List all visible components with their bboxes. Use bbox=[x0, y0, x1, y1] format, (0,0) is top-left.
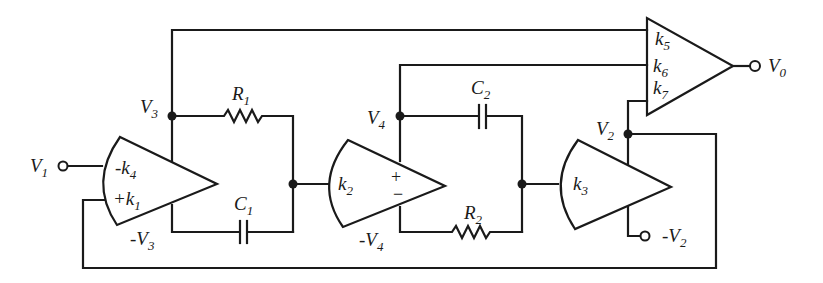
label-summer-k5: k5 bbox=[655, 28, 670, 53]
label-amp2-k2: k2 bbox=[338, 173, 353, 198]
amplifier-1 bbox=[103, 137, 217, 225]
label-r1: R1 bbox=[231, 83, 250, 108]
label-v3: V3 bbox=[140, 96, 159, 121]
label-neg-v2: -V2 bbox=[662, 225, 687, 250]
label-amp1-neg-k4: -k4 bbox=[115, 157, 137, 182]
label-summer-k7: k7 bbox=[653, 77, 668, 102]
resistor-r2 bbox=[400, 207, 522, 238]
circuit-diagram: V1 V3 -V3 R1 C1 -k4 +k1 k2 + − V4 -V4 C2… bbox=[0, 0, 823, 283]
wire-v2-to-k7 bbox=[628, 101, 647, 134]
label-neg-v3: -V3 bbox=[130, 228, 155, 253]
input-terminal-v1 bbox=[59, 162, 68, 171]
wire-v4-to-k6 bbox=[400, 65, 647, 116]
label-v2: V2 bbox=[596, 118, 615, 143]
label-amp2-minus: − bbox=[393, 184, 403, 204]
label-v0: V0 bbox=[768, 55, 787, 80]
output-terminal bbox=[750, 61, 760, 71]
label-neg-v4: -V4 bbox=[359, 229, 384, 254]
label-amp3-k3: k3 bbox=[573, 173, 588, 198]
label-c2: C2 bbox=[471, 77, 491, 102]
label-c1: C1 bbox=[234, 193, 253, 218]
label-r2: R2 bbox=[463, 202, 483, 227]
label-amp1-pos-k1: +k1 bbox=[113, 188, 141, 213]
label-v1: V1 bbox=[30, 155, 48, 180]
label-v4: V4 bbox=[367, 107, 386, 132]
terminal-neg-v2 bbox=[641, 232, 650, 241]
